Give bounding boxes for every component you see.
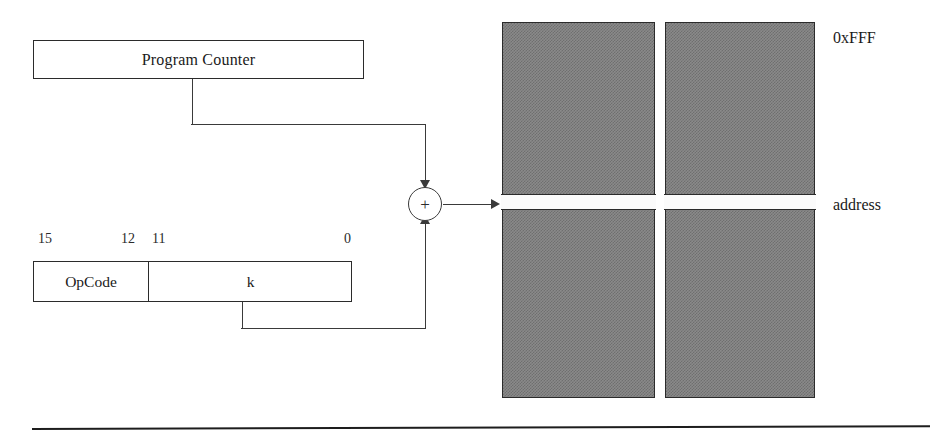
program-counter-label: Program Counter <box>34 52 363 68</box>
bit-label-15: 15 <box>38 232 52 246</box>
program-counter-box: Program Counter <box>33 40 364 79</box>
memory-block-right <box>665 22 815 398</box>
k-wire-vertical-to-adder <box>425 223 426 329</box>
plus-icon: + <box>409 196 441 213</box>
adder-to-memory-arrowhead-icon <box>491 199 500 209</box>
adder-output-wire <box>443 204 492 205</box>
instruction-field-k: k <box>148 262 353 301</box>
memory-address-label: address <box>833 197 881 213</box>
memory-address-row-right <box>664 194 815 210</box>
memory-block-left <box>502 22 655 398</box>
instruction-field-opcode: OpCode <box>34 262 148 301</box>
bit-label-12: 12 <box>121 232 135 246</box>
pc-wire-horizontal <box>191 124 426 125</box>
instruction-word-box: OpCode k <box>33 261 352 302</box>
k-wire-vertical-drop <box>242 302 243 329</box>
page-bottom-rule <box>32 425 930 430</box>
memory-address-row-left <box>501 194 655 210</box>
k-wire-horizontal <box>241 328 426 329</box>
adder-node: + <box>408 187 442 221</box>
bit-label-11: 11 <box>152 232 165 246</box>
pc-wire-vertical-drop <box>192 79 193 125</box>
opcode-field-label: OpCode <box>34 274 148 290</box>
relative-addressing-diagram: Program Counter 15 12 11 0 OpCode k + 0x… <box>0 0 935 447</box>
k-field-label: k <box>148 274 353 290</box>
pc-wire-vertical-to-adder <box>425 124 426 186</box>
bit-label-0: 0 <box>344 232 351 246</box>
memory-top-address-label: 0xFFF <box>833 30 876 46</box>
